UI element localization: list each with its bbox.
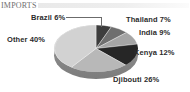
pie-top-face — [54, 25, 138, 72]
chart-area: Brazil 6% Thailand 7% India 9% Kenya 12%… — [0, 11, 190, 92]
slice-label-brazil: Brazil 6% — [31, 13, 65, 22]
slice-label-djibouti: Djibouti 26% — [113, 75, 159, 84]
header-rule — [38, 3, 189, 8]
slice-label-thailand: Thailand 7% — [126, 15, 171, 24]
imports-pie-chart-figure: IMPORTS — [0, 0, 190, 92]
slice-label-other: Other 40% — [7, 35, 45, 44]
leader-line-brazil-vertical — [101, 17, 102, 27]
page-title: IMPORTS — [1, 0, 37, 11]
leader-line-brazil-horizontal — [66, 17, 102, 18]
slice-label-india: India 9% — [139, 28, 170, 37]
pie-chart — [54, 21, 138, 83]
figure-header: IMPORTS — [1, 0, 189, 11]
slice-label-kenya: Kenya 12% — [134, 48, 175, 57]
